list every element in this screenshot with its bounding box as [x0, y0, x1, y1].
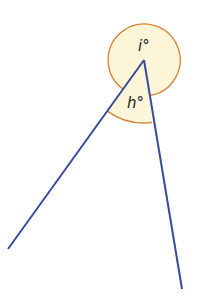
- angle-h-label: h°: [127, 94, 144, 112]
- angle-diagram: i° h°: [0, 0, 209, 307]
- right-ray: [144, 60, 182, 289]
- angle-i-label: i°: [138, 37, 150, 55]
- left-ray: [8, 60, 144, 249]
